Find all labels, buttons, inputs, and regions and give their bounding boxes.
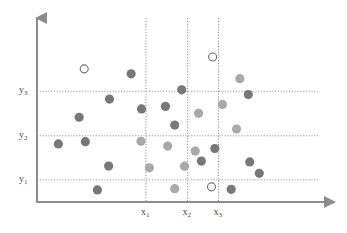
data-point-light-10 [235, 74, 244, 83]
data-point-light-3 [191, 146, 200, 155]
data-point-dark-13 [197, 156, 206, 165]
data-point-light-1 [136, 137, 145, 146]
y-tick-label-y3: y3 [19, 84, 28, 95]
y-tick-label-y2: y2 [19, 129, 28, 140]
data-point-dark-4 [81, 137, 90, 146]
x-tick-label-x2: x2 [183, 206, 192, 217]
vertical-gridlines [146, 18, 218, 202]
data-point-dark-16 [227, 185, 236, 194]
data-point-dark-17 [244, 90, 253, 99]
data-point-light-4 [145, 163, 154, 172]
horizontal-gridlines [37, 91, 318, 179]
scatter-plot-figure: y3y2y1 x1x2x3 [0, 0, 347, 233]
data-point-dark-1 [75, 113, 84, 122]
data-point-group [54, 53, 264, 195]
data-point-dark-2 [105, 95, 114, 104]
data-point-light-2 [163, 142, 172, 151]
data-point-open-1 [80, 65, 88, 73]
data-point-dark-12 [210, 144, 219, 153]
plot-canvas [0, 0, 347, 233]
data-point-open-3 [208, 183, 216, 191]
data-point-dark-14 [245, 157, 254, 166]
data-point-light-7 [194, 109, 203, 118]
data-point-dark-9 [161, 102, 170, 111]
data-point-dark-8 [137, 104, 146, 113]
data-point-light-6 [170, 184, 179, 193]
data-point-dark-10 [177, 85, 186, 94]
data-point-open-2 [209, 53, 217, 61]
y-tick-label-y1: y1 [19, 173, 28, 184]
data-point-dark-7 [127, 69, 136, 78]
data-point-dark-11 [170, 121, 179, 130]
data-point-light-8 [218, 100, 227, 109]
data-point-light-5 [180, 162, 189, 171]
data-point-dark-5 [104, 161, 113, 170]
x-tick-label-x1: x1 [141, 206, 150, 217]
data-point-dark-15 [255, 169, 264, 178]
x-tick-label-x3: x3 [214, 206, 223, 217]
data-point-light-9 [232, 124, 241, 133]
data-point-dark-3 [54, 139, 63, 148]
data-point-dark-6 [93, 185, 102, 194]
